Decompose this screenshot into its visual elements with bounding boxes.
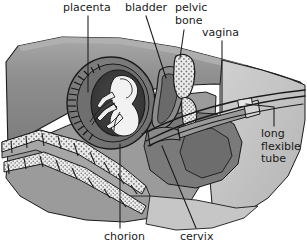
pelvic-bone (174, 54, 195, 98)
chorionic-sac-group (67, 57, 155, 149)
anatomical-diagram (0, 0, 307, 247)
label-chorion: chorion (104, 231, 145, 244)
label-placenta: placenta (63, 2, 111, 15)
label-bladder: bladder (125, 2, 167, 15)
label-pelvic-bone: pelvic bone (175, 2, 207, 27)
label-cervix: cervix (180, 231, 213, 244)
label-vagina: vagina (202, 27, 239, 40)
label-long-flexible-tube: long flexible tube (261, 128, 301, 166)
